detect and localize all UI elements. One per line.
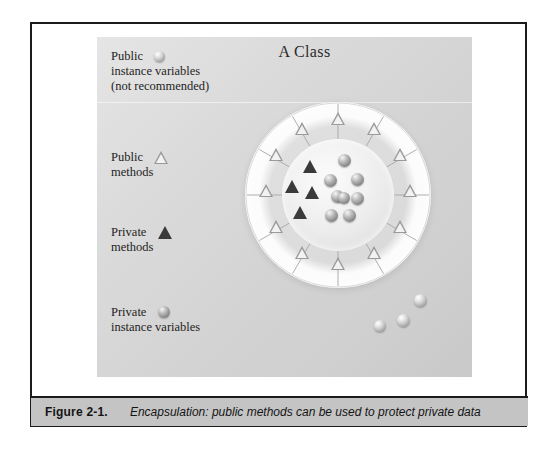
legend-label-line2: methods <box>111 165 168 180</box>
illustration-panel: A Class Public instance variables (not r… <box>97 37 472 377</box>
escaped-sphere-icon <box>374 320 386 332</box>
core-sphere-icon <box>338 192 350 204</box>
core-filled-triangle-icon <box>285 180 299 193</box>
legend-item-public-methods: Public methods <box>111 150 168 180</box>
ring-open-triangle-icon <box>331 112 345 125</box>
core-sphere-icon <box>324 174 337 187</box>
ring-open-triangle-icon <box>331 257 345 270</box>
ring-open-triangle-icon <box>295 246 309 259</box>
ring-open-triangle-icon <box>259 184 273 197</box>
legend-item-private-methods: Private methods <box>111 225 172 255</box>
open-triangle-icon <box>154 151 168 164</box>
legend-label-line2: instance variables <box>111 320 200 335</box>
light-sphere-icon <box>154 51 165 62</box>
dark-sphere-icon <box>158 306 170 318</box>
legend-label-line1: Public <box>111 49 143 64</box>
core-filled-triangle-icon <box>305 186 319 199</box>
figure-number-label: Figure 2-1. <box>45 405 108 419</box>
core-sphere-icon <box>325 209 338 222</box>
escaped-sphere-icon <box>414 294 427 307</box>
core-sphere-icon <box>351 173 364 186</box>
legend-item-public-instance-variables: Public instance variables (not recommend… <box>111 49 209 94</box>
legend-label-line1: Private <box>111 225 146 240</box>
ring-open-triangle-icon <box>367 122 381 135</box>
escaped-sphere-icon <box>397 314 410 327</box>
core-sphere-icon <box>343 209 356 222</box>
filled-triangle-icon <box>158 226 172 239</box>
ring-open-triangle-icon <box>269 148 283 161</box>
legend-item-private-instance-variables: Private instance variables <box>111 305 200 335</box>
ring-open-triangle-icon <box>295 122 309 135</box>
core-filled-triangle-icon <box>303 160 317 173</box>
legend-label-line1: Public <box>111 150 143 165</box>
class-diagram-graphic <box>245 102 435 292</box>
core-sphere-icon <box>338 154 351 167</box>
ring-open-triangle-icon <box>393 220 407 233</box>
figure-frame: A Class Public instance variables (not r… <box>30 22 527 427</box>
legend-label-line2: methods <box>111 240 172 255</box>
legend-label-line3: (not recommended) <box>111 79 209 94</box>
figure-caption-text: Encapsulation: public methods can be use… <box>130 405 481 419</box>
core-sphere-icon <box>351 192 364 205</box>
figure-caption-bar: Figure 2-1. Encapsulation: public method… <box>31 396 528 426</box>
core-filled-triangle-icon <box>293 206 307 219</box>
ring-open-triangle-icon <box>403 184 417 197</box>
legend-label-line2: instance variables <box>111 64 209 79</box>
ring-open-triangle-icon <box>367 246 381 259</box>
ring-open-triangle-icon <box>269 220 283 233</box>
ring-open-triangle-icon <box>393 148 407 161</box>
legend-label-line1: Private <box>111 305 146 320</box>
